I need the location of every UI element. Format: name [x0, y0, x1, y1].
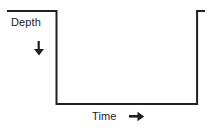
arrow-down-icon: [33, 41, 45, 56]
depth-time-profile-figure: Depth Time: [0, 0, 210, 130]
arrow-right-icon: [129, 110, 145, 123]
depth-axis-label: Depth: [11, 16, 41, 29]
time-axis-label: Time: [92, 110, 116, 123]
